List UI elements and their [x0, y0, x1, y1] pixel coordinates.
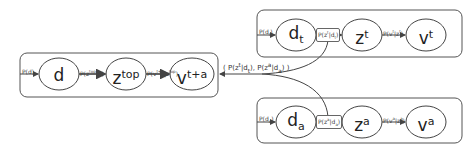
diagram-canvas — [0, 0, 472, 153]
node-label-d-t: dt — [288, 24, 303, 49]
node-label-z-top: ztop — [113, 66, 140, 87]
edge-label-p-za-da: P(za|da) — [316, 115, 342, 129]
edge-label-p-vt-zt: P(vt|zt) — [383, 28, 403, 37]
edge-label-p-ztop-d: P(ztop|d) — [80, 68, 104, 77]
node-label-d-a: da — [287, 111, 305, 136]
node-label-d: d — [54, 66, 65, 84]
merge-label: ( P(zt|dt), P(za|da) ) — [223, 62, 289, 74]
edge-label-p-d: P(d) — [22, 68, 34, 75]
edge-label-p-zt-dt: P(zt|dt) — [316, 28, 340, 42]
edge-label-p-dt: P(dt) — [259, 28, 273, 38]
node-label-z-a: za — [354, 113, 370, 134]
edge-label-p-va-za: P(va|za) — [383, 115, 405, 124]
node-label-v-a: va — [418, 113, 435, 134]
edge-label-p-da: P(da) — [259, 115, 274, 125]
node-label-z-t: zt — [355, 26, 368, 47]
node-label-v-t: vt — [419, 26, 433, 47]
node-label-v-t-plus-a: vt+a — [177, 66, 207, 87]
edge-label-p-vta-ztop: P(vt+a|ztop) — [147, 68, 178, 77]
